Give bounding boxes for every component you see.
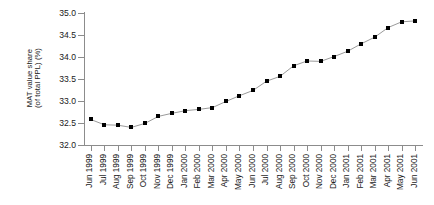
x-axis-tick-mark — [415, 146, 416, 151]
data-point-marker — [319, 59, 323, 63]
x-axis-tick-label: May 2001 — [397, 154, 405, 190]
x-axis-tick-label: Jul 2000 — [262, 154, 270, 185]
y-axis-title-line-2: (of total PPL) (%) — [34, 48, 42, 108]
y-axis-tick-label: 34.0 — [48, 53, 76, 62]
y-axis-tick-label: 34.5 — [48, 31, 76, 40]
x-axis-tick-label: Nov 1999 — [154, 154, 162, 189]
x-axis-tick-label: Apr 2001 — [384, 154, 392, 187]
x-axis-tick-label: Oct 2000 — [303, 154, 311, 187]
data-point-marker — [183, 109, 187, 113]
x-axis-tick-mark — [199, 146, 200, 151]
x-axis-tick-label: Sep 2000 — [289, 154, 297, 189]
data-point-marker — [89, 117, 93, 121]
x-axis-tick-label: Oct 1999 — [140, 154, 148, 187]
x-axis-tick-label: Jun 2000 — [249, 154, 257, 188]
data-point-marker — [224, 99, 228, 103]
x-axis-tick-label: Mar 2001 — [370, 154, 378, 189]
data-point-marker — [265, 79, 269, 83]
x-axis-tick-mark — [334, 146, 335, 151]
x-axis-tick-mark — [388, 146, 389, 151]
data-point-marker — [197, 107, 201, 111]
x-axis-tick-mark — [375, 146, 376, 151]
data-point-marker — [386, 26, 390, 30]
x-axis-tick-mark — [172, 146, 173, 151]
data-point-marker — [237, 94, 241, 98]
y-axis-tick-label: 35.0 — [48, 9, 76, 18]
x-axis-tick-label: Jan 2000 — [181, 154, 189, 188]
y-axis-tick-mark — [78, 145, 84, 146]
data-point-marker — [251, 88, 255, 92]
y-axis-tick-mark — [78, 79, 84, 80]
x-axis-tick-label: Apr 2000 — [221, 154, 229, 187]
x-axis-tick-mark — [307, 146, 308, 151]
y-axis-tick-labels: 32.032.533.033.534.034.535.0 — [46, 0, 76, 205]
data-point-marker — [210, 106, 214, 110]
y-axis-tick-label: 33.5 — [48, 75, 76, 84]
x-axis-tick-mark — [361, 146, 362, 151]
y-axis-tick-label: 33.0 — [48, 97, 76, 106]
x-axis-tick-mark — [267, 146, 268, 151]
x-axis-tick-label: Aug 1999 — [113, 154, 121, 189]
data-point-marker — [413, 19, 417, 23]
data-point-marker — [359, 42, 363, 46]
data-point-marker — [278, 74, 282, 78]
data-point-marker — [292, 64, 296, 68]
x-axis-tick-label: Feb 2000 — [194, 154, 202, 189]
x-axis-tick-label: Jun 2001 — [411, 154, 419, 188]
y-axis-tick-mark — [78, 13, 84, 14]
x-axis-tick-label: Feb 2001 — [357, 154, 365, 189]
x-axis-tick-mark — [239, 146, 240, 151]
data-point-marker — [143, 121, 147, 125]
y-axis-tick-mark — [78, 57, 84, 58]
x-axis-tick-mark — [212, 146, 213, 151]
y-axis-tick-mark — [78, 123, 84, 124]
data-point-marker — [400, 20, 404, 24]
x-axis-tick-label: Jun 1999 — [86, 154, 94, 188]
data-point-marker — [373, 35, 377, 39]
x-axis-tick-mark — [348, 146, 349, 151]
x-axis-tick-label: Dec 1999 — [167, 154, 175, 189]
chart-container: MAT value share (of total PPL) (%) 32.03… — [0, 0, 434, 205]
x-axis-tick-mark — [321, 146, 322, 151]
x-axis-tick-label: Jan 2001 — [343, 154, 351, 188]
data-point-marker — [332, 55, 336, 59]
series-line-path — [84, 13, 422, 145]
x-axis-tick-mark — [158, 146, 159, 151]
data-point-marker — [305, 59, 309, 63]
x-axis-tick-mark — [185, 146, 186, 151]
data-point-marker — [116, 123, 120, 127]
data-point-marker — [156, 114, 160, 118]
x-axis-tick-label: Aug 2000 — [276, 154, 284, 189]
x-axis-tick-label: Sep 1999 — [127, 154, 135, 189]
x-axis-tick-mark — [402, 146, 403, 151]
x-axis-tick-label: May 2000 — [235, 154, 243, 190]
x-axis-tick-mark — [280, 146, 281, 151]
x-axis-tick-label: Jul 1999 — [100, 154, 108, 185]
x-axis-tick-mark — [226, 146, 227, 151]
x-axis-tick-mark — [118, 146, 119, 151]
data-point-marker — [129, 125, 133, 129]
x-axis-tick-mark — [294, 146, 295, 151]
data-point-marker — [102, 123, 106, 127]
x-axis-tick-mark — [253, 146, 254, 151]
y-axis-tick-label: 32.5 — [48, 119, 76, 128]
x-axis-tick-mark — [145, 146, 146, 151]
x-axis-tick-label: Dec 2000 — [330, 154, 338, 189]
data-point-marker — [170, 111, 174, 115]
data-point-marker — [346, 49, 350, 53]
x-axis-tick-label: Mar 2000 — [208, 154, 216, 189]
y-axis-tick-mark — [78, 101, 84, 102]
x-axis-tick-mark — [91, 146, 92, 151]
y-axis-tick-mark — [78, 35, 84, 36]
x-axis-tick-mark — [131, 146, 132, 151]
y-axis-title: MAT value share (of total PPL) (%) — [22, 18, 46, 138]
x-axis-tick-mark — [104, 146, 105, 151]
plot-area — [84, 13, 422, 145]
y-axis-tick-label: 32.0 — [48, 141, 76, 150]
x-axis-tick-label: Nov 2000 — [316, 154, 324, 189]
